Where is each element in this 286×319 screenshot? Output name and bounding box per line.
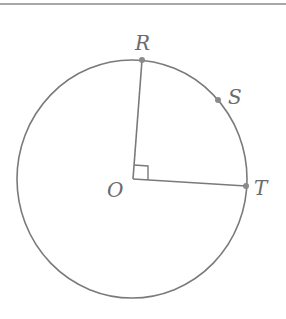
- radius-ot: [133, 179, 246, 186]
- label-t: T: [254, 176, 269, 200]
- right-angle-marker: [134, 165, 148, 180]
- point-s: [215, 97, 221, 103]
- label-s: S: [228, 85, 242, 109]
- label-o: O: [107, 178, 123, 202]
- radius-or: [133, 60, 142, 179]
- point-r: [139, 57, 145, 63]
- label-r: R: [134, 31, 150, 55]
- circle-diagram: R S T O: [0, 0, 286, 319]
- point-t: [243, 183, 249, 189]
- circle-o: [17, 60, 247, 298]
